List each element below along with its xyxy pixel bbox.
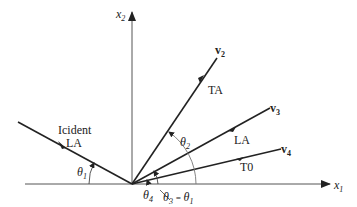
x1-axis-label: x1 bbox=[333, 178, 343, 194]
theta2-angle: θ2 bbox=[169, 132, 196, 184]
incident-wave-label: LA bbox=[66, 136, 82, 150]
incident-label: Icident bbox=[58, 123, 92, 137]
x2-axis-label: x2 bbox=[115, 7, 125, 23]
v4-wave-label: T0 bbox=[240, 160, 253, 174]
v4-label: v4 bbox=[281, 142, 291, 158]
theta2-label: θ2 bbox=[180, 135, 190, 151]
theta4-label: θ4 bbox=[143, 188, 153, 204]
vector-v2: v2 TA bbox=[132, 43, 225, 184]
v3-wave-label: LA bbox=[234, 133, 250, 147]
theta1-angle: θ1 bbox=[77, 163, 94, 184]
v2-label: v2 bbox=[215, 43, 225, 59]
incident-ray: Icident LA bbox=[18, 122, 132, 184]
wave-reflection-diagram: x1 x2 Icident LA v2 TA v3 LA v4 T0 θ1 bbox=[0, 0, 357, 207]
theta1-label: θ1 bbox=[77, 165, 87, 181]
theta3-angle: θ3 = θ1 bbox=[154, 171, 193, 206]
v3-label: v3 bbox=[270, 101, 280, 117]
theta3-label: θ3 = θ1 bbox=[163, 190, 193, 206]
x2-axis: x2 bbox=[115, 7, 132, 184]
v2-wave-label: TA bbox=[208, 83, 223, 97]
